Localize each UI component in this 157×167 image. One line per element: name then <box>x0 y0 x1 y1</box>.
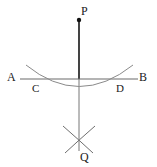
label-point-p: P <box>81 5 88 17</box>
geometry-canvas <box>0 0 157 167</box>
point-p-marker <box>77 18 81 22</box>
arc-from-point-c <box>63 126 93 153</box>
label-point-b: B <box>139 71 147 83</box>
arc-from-point-d <box>65 126 95 153</box>
label-point-a: A <box>7 71 16 83</box>
label-point-c: C <box>32 82 39 94</box>
label-point-q: Q <box>80 151 89 163</box>
label-point-d: D <box>116 82 124 94</box>
geometry-figure: P A B C D Q <box>0 0 157 167</box>
